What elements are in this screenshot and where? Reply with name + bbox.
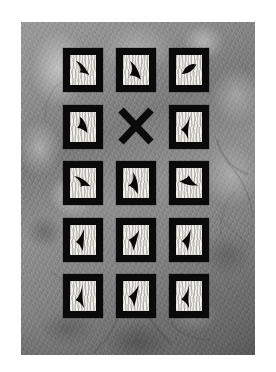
card-mat [70, 281, 96, 311]
grid-cell-r5c3 [169, 271, 209, 321]
feather-silhouette-icon [176, 225, 202, 255]
grid-cell-r4c1 [63, 215, 103, 265]
feather-card [116, 274, 156, 318]
feather-silhouette-icon [70, 112, 96, 142]
card-mat [176, 168, 202, 198]
grid-cell-r2c1 [63, 102, 103, 152]
feather-card [169, 218, 209, 262]
feather-card [169, 48, 209, 92]
feather-silhouette-icon [70, 225, 96, 255]
grid-cell-r3c2 [116, 158, 156, 208]
grid-cell-r5c1 [63, 271, 103, 321]
feather-silhouette-icon [123, 168, 149, 198]
card-mat [176, 281, 202, 311]
feather-silhouette-icon [176, 55, 202, 85]
grid-cell-r3c3 [169, 158, 209, 208]
feather-card [63, 274, 103, 318]
card-mat [70, 112, 96, 142]
feather-silhouette-icon [176, 112, 202, 142]
feather-silhouette-icon [70, 55, 96, 85]
feather-card [63, 105, 103, 149]
card-mat [70, 168, 96, 198]
grid-cell-r1c1 [63, 45, 103, 95]
feather-silhouette-icon [70, 168, 96, 198]
card-mat [70, 225, 96, 255]
grid-cell-r3c1 [63, 158, 103, 208]
feather-silhouette-icon [123, 55, 149, 85]
feather-silhouette-icon [123, 281, 149, 311]
feather-card [169, 161, 209, 205]
feather-grid [63, 45, 213, 321]
card-mat [123, 225, 149, 255]
grid-cell-r5c2 [116, 271, 156, 321]
grid-cell-r4c3 [169, 215, 209, 265]
feather-card [169, 274, 209, 318]
feather-card [116, 48, 156, 92]
screenshot-canvas [0, 0, 276, 372]
photograph [21, 22, 255, 355]
branch-streak [95, 318, 117, 352]
card-mat [176, 225, 202, 255]
feather-silhouette-icon [70, 281, 96, 311]
feather-silhouette-icon [176, 168, 202, 198]
feather-card [63, 161, 103, 205]
feather-silhouette-icon [123, 225, 149, 255]
grid-cell-r1c2 [116, 45, 156, 95]
card-mat [176, 112, 202, 142]
card-mat [176, 55, 202, 85]
feather-card [169, 105, 209, 149]
branch-streak [171, 322, 209, 340]
feather-card [63, 218, 103, 262]
card-mat [123, 168, 149, 198]
branch-streak [45, 82, 61, 122]
grid-cell-r2c2 [116, 102, 156, 152]
grid-cell-r4c2 [116, 215, 156, 265]
grid-cell-r1c3 [169, 45, 209, 95]
card-mat [123, 55, 149, 85]
feather-card [116, 218, 156, 262]
feather-silhouette-icon [176, 281, 202, 311]
branch-streak [219, 218, 251, 248]
feather-card [63, 48, 103, 92]
x-marker-icon [113, 101, 159, 151]
branch-streak [217, 140, 247, 174]
card-mat [70, 55, 96, 85]
feather-card [116, 161, 156, 205]
card-mat [123, 281, 149, 311]
grid-cell-r2c3 [169, 102, 209, 152]
